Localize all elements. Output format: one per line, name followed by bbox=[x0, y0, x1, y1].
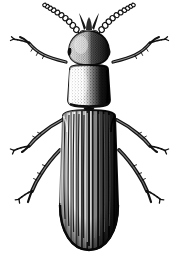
beetle-drawing bbox=[0, 0, 177, 261]
pronotum bbox=[68, 65, 110, 107]
elytra bbox=[60, 110, 118, 250]
beetle-illustration-figure: Beetle dorsal view engraving bbox=[0, 0, 177, 261]
